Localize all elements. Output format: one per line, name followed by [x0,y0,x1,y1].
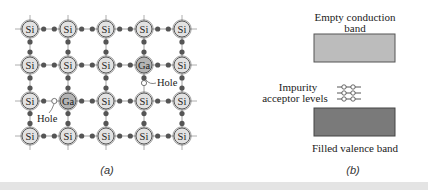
bond-electron [27,85,32,90]
semiconductor-diagram: SiSiSiSiSiSiSiSiGaSiSiGaSiSiSiSiSiSiSiSi… [0,0,428,190]
svg-text:Si: Si [64,24,73,35]
svg-text:Si: Si [26,96,35,107]
bond-electron [128,98,133,103]
figure: SiSiSiSiSiSiSiSiGaSiSiGaSiSiSiSiSiSiSiSi… [0,0,428,190]
bond-electron [117,26,122,31]
bond-electron [179,39,184,44]
bond-electron [179,49,184,54]
bond-electron [52,133,57,138]
silicon-atom: Si [59,127,77,145]
silicon-atom: Si [97,20,115,38]
bond-electron [65,111,70,116]
bond-electron [103,49,108,54]
conduction-band [314,34,395,62]
svg-text:Ga: Ga [62,96,75,107]
bond-electron [79,133,84,138]
hole-label: Hole [37,113,58,124]
bond-electron [79,26,84,31]
svg-text:Si: Si [26,60,35,71]
bond-electron [27,111,32,116]
bond-electron [166,26,171,31]
silicon-atom: Si [21,92,39,110]
silicon-atom: Si [21,20,39,38]
bond-electron [27,49,32,54]
bond-electron [141,111,146,116]
bond-electron [128,133,133,138]
acceptor-hole [351,85,355,89]
svg-text:Si: Si [178,60,187,71]
acceptor-hole [342,97,346,101]
svg-text:Si: Si [140,131,149,142]
bond-electron [166,62,171,67]
silicon-atom: Si [173,127,191,145]
svg-text:Si: Si [102,60,111,71]
gallium-atom: Ga [59,92,77,110]
bond-electron [155,133,160,138]
acceptor-levels [337,85,361,101]
bond-electron [41,98,46,103]
bond-electron [79,62,84,67]
silicon-atom: Si [59,20,77,38]
bond-electron [65,75,70,80]
acceptor-label-2: acceptor levels [262,92,328,104]
bond-electron [179,85,184,90]
bond-electron [128,62,133,67]
silicon-atom: Si [173,20,191,38]
bond-electron [103,75,108,80]
svg-text:Si: Si [102,24,111,35]
silicon-atom: Si [21,56,39,74]
bond-electron [90,98,95,103]
bond-electron [103,121,108,126]
caption-b: (b) [346,164,360,176]
bond-electron [141,121,146,126]
bond-electron [117,62,122,67]
bond-electron [52,62,57,67]
svg-text:Si: Si [178,131,187,142]
silicon-atom: Si [97,92,115,110]
bond-electron [179,75,184,80]
bond-electron [103,39,108,44]
acceptor-hole [351,91,355,95]
bond-electron [117,133,122,138]
bond-electron [166,133,171,138]
bond-electron [65,49,70,54]
acceptor-hole [351,97,355,101]
bond-electron [179,111,184,116]
svg-text:Si: Si [26,24,35,35]
silicon-atom: Si [97,127,115,145]
svg-text:Si: Si [102,131,111,142]
acceptor-hole [342,85,346,89]
bond-electron [41,133,46,138]
svg-text:Si: Si [140,96,149,107]
svg-text:Si: Si [178,96,187,107]
svg-text:Si: Si [64,60,73,71]
acceptor-hole [342,91,346,95]
hole-label: Hole [157,77,178,88]
bond-electron [141,75,146,80]
bond-electron [90,133,95,138]
silicon-atom: Si [135,127,153,145]
silicon-atom: Si [21,127,39,145]
bond-electron [41,26,46,31]
bond-electron [65,85,70,90]
bond-electron [65,39,70,44]
hole-marker [52,98,57,103]
gallium-atom: Ga [135,56,153,74]
bond-electron [103,111,108,116]
silicon-atom: Si [173,92,191,110]
bond-electron [141,49,146,54]
conduction-band-label-2: band [344,22,366,34]
svg-text:Si: Si [26,131,35,142]
svg-text:Si: Si [140,24,149,35]
bond-electron [155,98,160,103]
silicon-atom: Si [135,20,153,38]
hole-marker [141,80,146,85]
silicon-atom: Si [97,56,115,74]
bond-electron [41,62,46,67]
silicon-atom: Si [135,92,153,110]
bond-electron [79,98,84,103]
bond-electron [155,26,160,31]
bond-electron [155,62,160,67]
bond-electron [65,121,70,126]
svg-text:Ga: Ga [138,60,151,71]
